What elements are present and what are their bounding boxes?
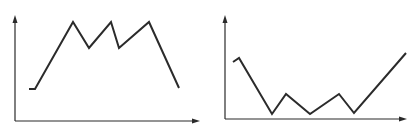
figure xyxy=(0,0,415,135)
chart-right xyxy=(223,15,408,122)
line-series xyxy=(233,53,406,114)
y-axis-arrow-icon xyxy=(13,15,18,23)
line-series xyxy=(29,22,179,89)
chart-left xyxy=(13,15,201,124)
line-charts-canvas xyxy=(0,0,415,135)
x-axis-arrow-icon xyxy=(399,117,407,122)
y-axis-arrow-icon xyxy=(223,15,228,23)
x-axis-arrow-icon xyxy=(192,119,200,124)
